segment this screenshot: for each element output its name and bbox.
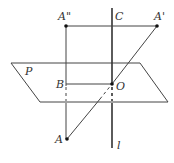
- label-c: C: [115, 10, 124, 23]
- point-o: [110, 82, 114, 86]
- segment-a-o: [67, 99, 100, 139]
- point-a: [65, 137, 69, 141]
- label-a2: A": [57, 10, 71, 23]
- label-o: O: [116, 80, 125, 93]
- point-a2: [64, 24, 68, 28]
- label-p: P: [24, 65, 33, 78]
- point-a1: [155, 24, 159, 28]
- plane-p: [11, 63, 168, 102]
- label-l: l: [117, 139, 121, 152]
- label-a1: A': [153, 10, 165, 23]
- label-b: B: [55, 78, 64, 91]
- segment-a-o-hidden: [100, 84, 112, 99]
- label-a: A: [54, 133, 63, 146]
- segment-o-a1: [112, 26, 157, 84]
- geometry-diagram: A" C A' P B O A l: [0, 0, 174, 163]
